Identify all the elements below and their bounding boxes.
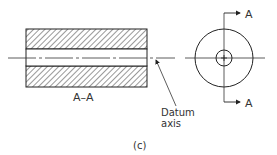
datum-leader — [156, 60, 176, 106]
technical-drawing: A A A–A Datum axis (c) — [0, 0, 277, 155]
upper-hatched-wall — [26, 29, 147, 49]
bore — [26, 49, 147, 66]
figure-caption: (c) — [133, 140, 146, 151]
section-label: A–A — [73, 91, 94, 104]
datum-label-line2: axis — [161, 118, 181, 129]
cut-label-top: A — [245, 8, 253, 21]
datum-label-line1: Datum — [161, 107, 195, 118]
cut-label-bottom: A — [245, 97, 253, 110]
lower-hatched-wall — [26, 66, 147, 87]
end-view — [185, 13, 265, 102]
